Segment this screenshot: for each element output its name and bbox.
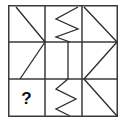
- puzzle-grid: [8, 5, 118, 117]
- matrix-puzzle: ?: [0, 0, 126, 122]
